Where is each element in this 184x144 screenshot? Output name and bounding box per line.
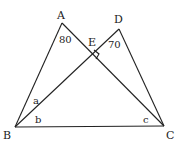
segment-AB — [15, 23, 62, 127]
point-label-B: B — [3, 129, 11, 142]
point-label-D: D — [114, 13, 123, 26]
angle-label-c: c — [143, 114, 149, 125]
diagram-canvas: A D E B C 80 70 a b c — [0, 0, 184, 144]
point-label-E: E — [88, 36, 96, 49]
point-label-C: C — [166, 129, 174, 142]
geometry-diagram: A D E B C 80 70 a b c — [0, 0, 184, 144]
angle-label-b: b — [35, 114, 41, 125]
angle-label-D: 70 — [108, 39, 121, 50]
angle-label-a: a — [33, 95, 39, 106]
segment-BC — [15, 126, 164, 127]
point-label-A: A — [56, 9, 66, 22]
angle-label-A: 80 — [59, 34, 72, 45]
segment-DC — [119, 29, 164, 126]
